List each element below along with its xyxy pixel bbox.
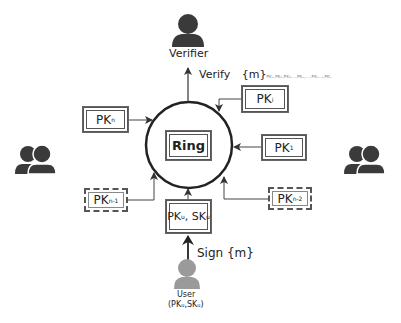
- pk-n-node: PKn: [83, 107, 128, 132]
- sign-label: Sign {m}: [197, 246, 254, 260]
- pk-n-1-base: PK: [94, 193, 109, 207]
- pk-n-2-base: PK: [278, 192, 293, 206]
- pk-n-1-sub: n-1: [109, 197, 119, 204]
- verifier-person-icon: [172, 14, 204, 47]
- pk-u-base: PK: [167, 210, 181, 223]
- verify-label: Verify {m}PK₁,PK₂,PK₃...,PKᵤ,...,PKₙ₋₁,P…: [199, 68, 332, 81]
- pk-i-base: PK: [257, 92, 272, 106]
- pk-u-sk-u-node: PKu, SKu: [166, 200, 211, 233]
- ring-box: Ring: [166, 131, 211, 160]
- pk-i-sub: i: [272, 96, 274, 103]
- sk-u-base: SK: [192, 210, 206, 223]
- verifier-label: Verifier: [169, 47, 208, 60]
- pk-n-2-sub: n-2: [293, 195, 303, 202]
- pk-n-2-node: PKn-2: [268, 187, 312, 210]
- user-label: User: [177, 290, 195, 299]
- verify-message: {m}: [242, 68, 267, 81]
- user-person-icon: [174, 259, 200, 289]
- left-group-icon: [15, 145, 56, 174]
- sk-u-sub: u: [206, 213, 210, 220]
- verify-message-subscript: PK₁,PK₂,PK₃...,PKᵤ,...,PKₙ₋₁,PKₙ: [266, 74, 331, 79]
- pk-1-base: PK: [275, 141, 290, 155]
- pk-1-node: PK1: [262, 135, 306, 160]
- pk-n-sub: n: [111, 116, 115, 123]
- pk-n-1-node: PKn-1: [84, 188, 128, 212]
- pk-n-1-edge: [128, 173, 154, 200]
- ring-label: Ring: [172, 138, 205, 153]
- verify-text: Verify: [199, 68, 230, 81]
- pk-n-2-edge: [224, 177, 268, 199]
- pk-n-base: PK: [96, 113, 111, 127]
- right-group-icon: [344, 145, 385, 174]
- pk-i-edge: [219, 99, 242, 111]
- pk-1-sub: 1: [290, 144, 294, 151]
- pk-u-sep: ,: [185, 210, 192, 223]
- pk-i-node: PKi: [242, 86, 288, 112]
- user-keys-label: (PKᵤ,SKᵤ): [168, 300, 204, 309]
